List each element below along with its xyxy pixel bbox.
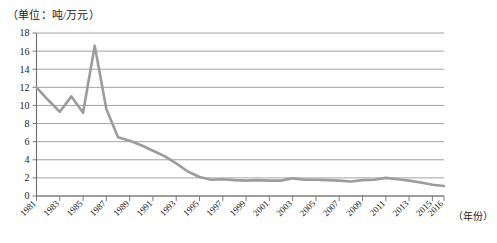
data-series-line	[37, 46, 445, 186]
x-axis-title: （年份）	[453, 210, 493, 222]
xtick-label: 1989	[111, 198, 131, 218]
xtick-label: 2007	[321, 198, 341, 218]
xtick-label: 1995	[181, 198, 201, 218]
xtick-label: 2001	[251, 198, 271, 218]
ytick-labels-group: 024681012141618	[20, 27, 30, 201]
xtick-label: 2011	[368, 198, 388, 218]
xtick-label: 1987	[88, 198, 108, 218]
xtick-label: 1997	[204, 198, 224, 218]
ytick-label: 4	[25, 154, 30, 165]
xtick-labels-group: 1981198319851987198919911993199519971999…	[18, 198, 446, 218]
xtick-label: 2005	[298, 198, 318, 218]
xtick-label: 1981	[18, 198, 38, 218]
ytick-label: 18	[20, 27, 30, 38]
xtick-label: 1985	[65, 198, 85, 218]
xtick-label: 2003	[274, 198, 294, 218]
ytick-label: 6	[25, 136, 30, 147]
xtick-label: 1991	[135, 198, 155, 218]
ytick-label: 8	[25, 118, 30, 129]
xtick-label: 1993	[158, 198, 178, 218]
ytick-label: 10	[20, 100, 30, 111]
chart-container: （单位：吨/万元） 024681012141618 19811983198519…	[0, 0, 497, 243]
ytick-label: 14	[20, 64, 30, 75]
ytick-marks-group	[33, 33, 37, 196]
ytick-label: 16	[20, 46, 30, 57]
xtick-label: 1983	[41, 198, 61, 218]
xtick-label: 1999	[228, 198, 248, 218]
line-chart-plot: 024681012141618 198119831985198719891991…	[0, 0, 497, 243]
xtick-label: 2013	[391, 198, 411, 218]
ytick-label: 2	[25, 172, 30, 183]
xtick-label: 2009	[344, 198, 364, 218]
ytick-label: 12	[20, 82, 30, 93]
